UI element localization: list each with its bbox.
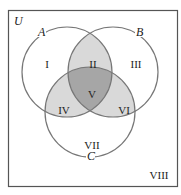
set-B-label: B [136,25,144,39]
region-VII-label: VII [84,139,100,151]
set-A-label: A [37,25,46,39]
region-VI-label: VI [118,104,130,116]
region-V-label: V [88,88,96,100]
region-I-label: I [45,58,49,70]
universe-label: U [14,14,24,28]
region-IV-label: IV [58,104,70,116]
set-C-label: C [87,149,96,163]
region-VIII-label: VIII [150,169,169,181]
region-III-label: III [131,58,142,70]
venn-diagram: U A B C I II III IV V VI VII VIII [0,0,181,195]
region-II-label: II [89,58,97,70]
